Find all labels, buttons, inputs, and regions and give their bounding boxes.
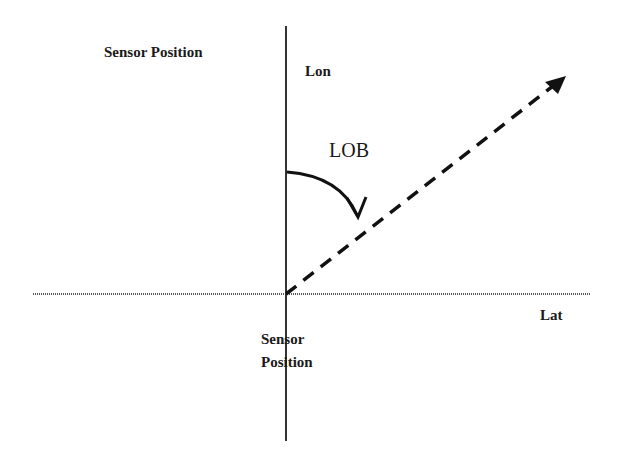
lob-vector <box>286 86 553 294</box>
lat-axis-label: Lat <box>540 307 563 324</box>
sensor-position-label-top: Sensor Position <box>104 44 203 61</box>
lon-axis-label: Lon <box>305 63 331 80</box>
sensor-position-label-bottom-2: Position <box>261 354 313 371</box>
sensor-position-label-bottom-1: Sensor <box>261 331 304 348</box>
lob-diagram: Sensor Position Lon LOB Lat Sensor Posit… <box>0 0 619 458</box>
lob-angle-arc <box>287 172 357 215</box>
lob-label: LOB <box>329 139 369 162</box>
lob-angle-arrowhead-icon <box>347 197 366 217</box>
